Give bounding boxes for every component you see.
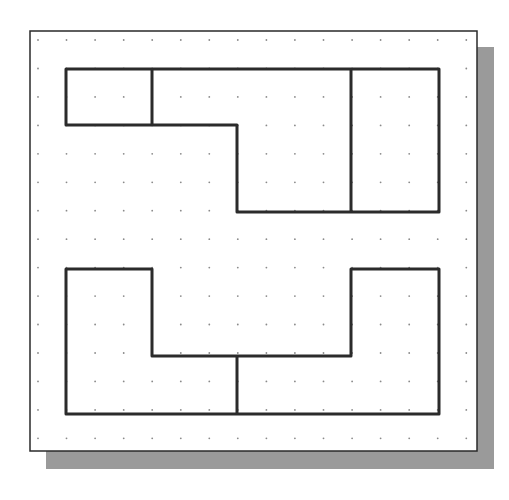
- grid-dot: [151, 381, 153, 383]
- grid-dot: [465, 68, 467, 70]
- grid-dot: [465, 267, 467, 269]
- grid-dot: [266, 437, 268, 439]
- grid-dot: [123, 437, 125, 439]
- grid-dot: [351, 39, 353, 41]
- grid-dot: [408, 39, 410, 41]
- grid-dot: [208, 181, 210, 183]
- grid-dot: [465, 125, 467, 127]
- grid-dot: [123, 153, 125, 155]
- grid-dot: [37, 210, 39, 212]
- grid-dot: [323, 181, 325, 183]
- grid-dot: [180, 409, 182, 411]
- grid-dot: [180, 381, 182, 383]
- grid-dot: [208, 324, 210, 326]
- grid-dot: [180, 39, 182, 41]
- grid-dot: [37, 39, 39, 41]
- grid-dot: [37, 238, 39, 240]
- grid-dot: [323, 39, 325, 41]
- grid-dot: [323, 324, 325, 326]
- grid-dot: [323, 409, 325, 411]
- grid-dot: [123, 238, 125, 240]
- grid-dot: [294, 96, 296, 98]
- grid-dot: [380, 295, 382, 297]
- grid-dot: [94, 381, 96, 383]
- grid-panel: [30, 31, 477, 451]
- grid-dot: [323, 267, 325, 269]
- grid-dot: [437, 39, 439, 41]
- grid-dot: [66, 437, 68, 439]
- grid-dot: [66, 153, 68, 155]
- grid-dot: [266, 324, 268, 326]
- grid-dot: [208, 39, 210, 41]
- grid-dot: [465, 210, 467, 212]
- grid-dot: [94, 409, 96, 411]
- grid-dot: [408, 96, 410, 98]
- grid-dot: [294, 238, 296, 240]
- grid-dot: [208, 267, 210, 269]
- grid-dot: [323, 238, 325, 240]
- grid-dot: [465, 381, 467, 383]
- grid-dot: [408, 125, 410, 127]
- grid-dot: [294, 181, 296, 183]
- grid-dot: [94, 324, 96, 326]
- grid-dot: [66, 181, 68, 183]
- grid-dot: [237, 295, 239, 297]
- grid-dot: [380, 238, 382, 240]
- grid-dot: [94, 238, 96, 240]
- grid-dot: [123, 210, 125, 212]
- grid-dot: [180, 238, 182, 240]
- grid-dot: [94, 181, 96, 183]
- grid-dot: [151, 238, 153, 240]
- grid-dot: [37, 68, 39, 70]
- grid-dot: [266, 267, 268, 269]
- grid-dot: [180, 295, 182, 297]
- grid-dot: [437, 437, 439, 439]
- grid-dot: [266, 295, 268, 297]
- grid-dot: [294, 295, 296, 297]
- grid-dot: [151, 181, 153, 183]
- grid-dot: [208, 381, 210, 383]
- grid-dot: [380, 39, 382, 41]
- grid-dot: [408, 153, 410, 155]
- grid-dot: [408, 238, 410, 240]
- grid-dot: [294, 409, 296, 411]
- grid-dot: [465, 238, 467, 240]
- grid-dot: [37, 437, 39, 439]
- grid-dot: [94, 295, 96, 297]
- grid-dot: [237, 267, 239, 269]
- grid-dot: [237, 437, 239, 439]
- grid-dot: [151, 210, 153, 212]
- grid-dot: [237, 238, 239, 240]
- grid-dot: [408, 352, 410, 354]
- grid-dot: [94, 437, 96, 439]
- grid-dot: [408, 381, 410, 383]
- grid-dot: [323, 352, 325, 354]
- grid-dot: [180, 324, 182, 326]
- grid-dot: [66, 210, 68, 212]
- grid-dot: [123, 39, 125, 41]
- grid-dot: [351, 238, 353, 240]
- grid-dot: [208, 295, 210, 297]
- grid-dot: [37, 295, 39, 297]
- grid-dot: [266, 238, 268, 240]
- grid-dot: [180, 181, 182, 183]
- grid-dot: [323, 295, 325, 297]
- grid-dot: [437, 238, 439, 240]
- grid-dot: [380, 153, 382, 155]
- grid-dot: [294, 352, 296, 354]
- grid-dot: [323, 437, 325, 439]
- grid-dot: [294, 267, 296, 269]
- grid-dot: [237, 352, 239, 354]
- grid-dot: [37, 96, 39, 98]
- grid-dot: [465, 153, 467, 155]
- grid-dot: [208, 437, 210, 439]
- grid-dot: [123, 181, 125, 183]
- grid-dot: [408, 437, 410, 439]
- grid-dot: [180, 267, 182, 269]
- grid-dot: [94, 210, 96, 212]
- grid-dot: [37, 181, 39, 183]
- grid-dot: [323, 96, 325, 98]
- grid-dot: [37, 125, 39, 127]
- grid-dot: [294, 324, 296, 326]
- grid-dot: [180, 153, 182, 155]
